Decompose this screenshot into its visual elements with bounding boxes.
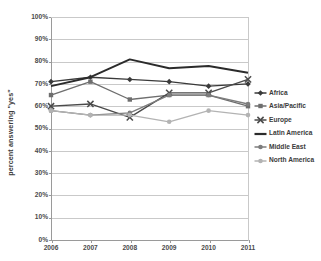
- data-point-marker-dot-dark: [246, 102, 251, 107]
- legend-marker-icon: [254, 155, 267, 167]
- x-axis-tick-label: 2010: [189, 245, 229, 252]
- legend-item[interactable]: Africa: [254, 86, 320, 100]
- data-point-marker-square: [49, 93, 53, 97]
- legend-item-label: Africa: [269, 90, 288, 97]
- legend: AfricaAsia/PacificEuropeLatin AmericaMid…: [254, 86, 320, 168]
- x-axis-tick-mark: [170, 240, 171, 243]
- data-point-marker-dot-light: [258, 158, 263, 163]
- y-axis-tick-label: 100%: [22, 14, 48, 21]
- y-axis-tick-label: 80%: [22, 58, 48, 65]
- plot-frame-right-border: [248, 17, 249, 241]
- x-axis-tick-mark: [210, 240, 211, 243]
- legend-item-label: Europe: [269, 117, 292, 124]
- y-axis-tick-label: 60%: [22, 103, 48, 110]
- series-line: [51, 59, 248, 86]
- data-point-marker-square: [258, 104, 262, 108]
- legend-item-label: Latin America: [269, 130, 312, 137]
- data-point-marker-dot-light: [206, 108, 211, 113]
- legend-marker-icon: [254, 114, 267, 126]
- x-axis-tick-mark: [52, 240, 53, 243]
- legend-marker-icon: [254, 100, 267, 112]
- series-latin-america: [51, 59, 248, 86]
- legend-marker-icon: [254, 128, 267, 140]
- y-axis-tick-label: 10%: [22, 214, 48, 221]
- series-north-america: [49, 108, 251, 124]
- series-line: [51, 111, 248, 122]
- data-point-marker-square: [128, 97, 132, 101]
- x-axis-tick-mark: [91, 240, 92, 243]
- data-point-marker-dot-dark: [206, 93, 211, 98]
- data-point-marker-diamond: [127, 77, 133, 83]
- x-axis-tick-label: 2009: [149, 245, 189, 252]
- legend-item[interactable]: Latin America: [254, 127, 320, 141]
- x-axis-tick-label: 2007: [70, 245, 110, 252]
- legend-item[interactable]: Europe: [254, 113, 320, 127]
- data-point-marker-diamond: [206, 83, 212, 89]
- y-axis-tick-labels: 0%10%20%30%40%50%60%70%80%90%100%: [0, 0, 48, 261]
- data-point-marker-dot-light: [128, 113, 133, 118]
- legend-item-label: North America: [269, 157, 314, 164]
- legend-item[interactable]: North America: [254, 154, 320, 168]
- y-axis-tick-label: 40%: [22, 148, 48, 155]
- legend-marker-icon: [254, 141, 267, 153]
- data-point-marker-diamond: [258, 90, 264, 96]
- data-point-marker-dot-light: [246, 113, 251, 118]
- y-axis-tick-label: 0%: [22, 237, 48, 244]
- data-point-marker-dot-light: [88, 113, 93, 118]
- data-point-marker-square: [88, 79, 92, 83]
- y-axis-tick-label: 30%: [22, 170, 48, 177]
- data-point-marker-dot-dark: [258, 145, 263, 150]
- y-axis-tick-label: 90%: [22, 36, 48, 43]
- x-axis-tick-label: 2008: [110, 245, 150, 252]
- x-axis-tick-mark: [249, 240, 250, 243]
- legend-marker-icon: [254, 87, 267, 99]
- data-series-layer: [51, 17, 248, 240]
- legend-item[interactable]: Middle East: [254, 140, 320, 154]
- data-point-marker-dot-light: [167, 120, 172, 125]
- legend-item-label: Asia/Pacific: [269, 103, 306, 110]
- y-axis-tick-label: 20%: [22, 192, 48, 199]
- data-point-marker-dot-light: [49, 108, 54, 113]
- y-axis-tick-label: 50%: [22, 125, 48, 132]
- data-point-marker-dot-dark: [167, 93, 172, 98]
- series-africa: [48, 74, 251, 89]
- y-axis-tick-label: 70%: [22, 81, 48, 88]
- line-chart: percent answering "yes" 0%10%20%30%40%50…: [0, 0, 321, 261]
- legend-item[interactable]: Asia/Pacific: [254, 100, 320, 114]
- x-axis-tick-label: 2011: [228, 245, 268, 252]
- legend-item-label: Middle East: [269, 144, 306, 151]
- x-axis-tick-mark: [131, 240, 132, 243]
- x-axis-tick-label: 2006: [31, 245, 71, 252]
- data-point-marker-diamond: [166, 79, 172, 85]
